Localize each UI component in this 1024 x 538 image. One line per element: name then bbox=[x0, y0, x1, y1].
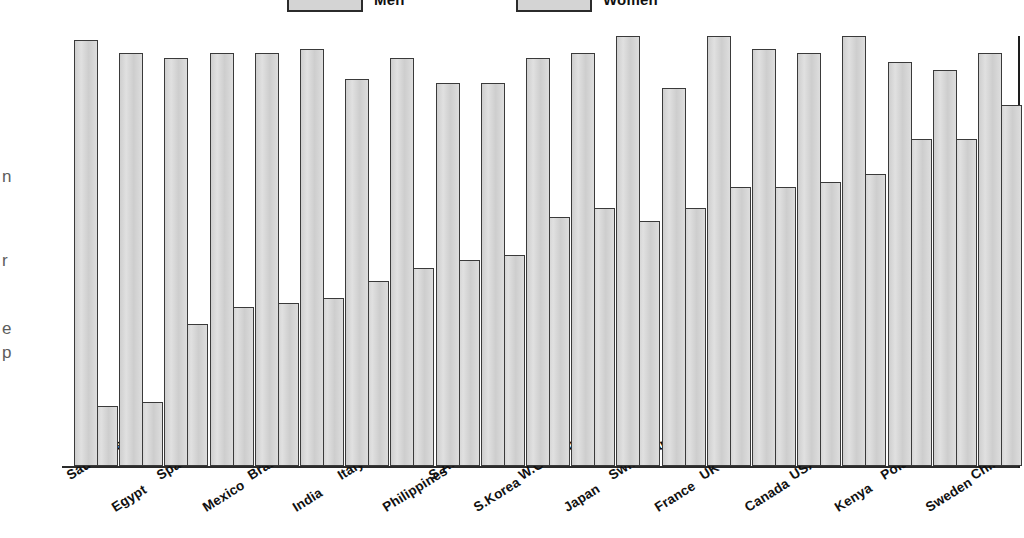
bar-men bbox=[842, 36, 866, 466]
legend-swatch-men bbox=[287, 0, 363, 12]
bar-men bbox=[74, 40, 98, 466]
bar-men bbox=[978, 53, 1002, 466]
bar-men bbox=[571, 53, 595, 466]
bar-men bbox=[255, 53, 279, 466]
x-axis-tick-labels: Saudi ArabiaEgyptSpainMexicoBrazilIndiaI… bbox=[62, 470, 1024, 538]
legend-item-women: Women bbox=[516, 0, 658, 12]
bar-men bbox=[164, 58, 188, 467]
bar-men bbox=[752, 49, 776, 466]
x-axis-label: Canada bbox=[742, 476, 792, 515]
bar-men bbox=[481, 83, 505, 466]
x-axis-label: India bbox=[290, 485, 325, 515]
x-axis-label: Mexico bbox=[200, 477, 247, 514]
side-caption-fragment: e bbox=[2, 320, 11, 337]
legend-item-men: Men bbox=[287, 0, 405, 12]
side-caption-fragment: r bbox=[2, 252, 8, 269]
bar-men bbox=[662, 88, 686, 466]
bar-men bbox=[119, 53, 143, 466]
bar-men bbox=[616, 36, 640, 466]
legend-label-women: Women bbox=[603, 0, 658, 8]
x-axis-label: S.Korea bbox=[471, 475, 523, 515]
side-caption-fragment: n bbox=[2, 168, 11, 185]
bar-men bbox=[300, 49, 324, 466]
bar-men bbox=[797, 53, 821, 466]
bar-men bbox=[707, 36, 731, 466]
x-axis-label: Kenya bbox=[832, 480, 875, 514]
side-caption-fragment: p bbox=[2, 344, 11, 361]
bar-men bbox=[933, 70, 957, 466]
chart-legend: Men Women bbox=[0, 0, 1024, 16]
x-axis-label: Japan bbox=[561, 481, 602, 515]
bar-men bbox=[888, 62, 912, 466]
legend-swatch-women bbox=[516, 0, 592, 12]
x-axis-label: Egypt bbox=[109, 482, 149, 515]
legend-label-men: Men bbox=[374, 0, 405, 8]
bar-men bbox=[526, 58, 550, 467]
x-axis-label: France bbox=[652, 478, 698, 515]
bar-men bbox=[345, 79, 369, 466]
bar-chart-plot-area bbox=[62, 36, 1020, 468]
bar-men bbox=[436, 83, 460, 466]
x-axis-label: Sweden bbox=[923, 475, 975, 515]
bar-men bbox=[390, 58, 414, 467]
bar-men bbox=[210, 53, 234, 466]
